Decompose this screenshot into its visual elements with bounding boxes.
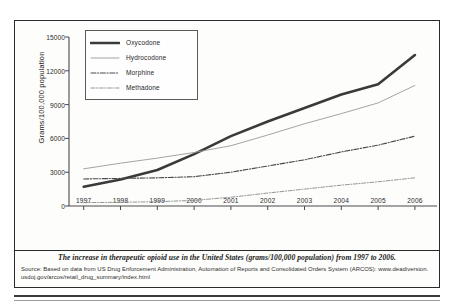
series-line-morphine xyxy=(84,136,415,179)
figure-caption: The increase in therapeutic opioid use i… xyxy=(15,253,439,262)
source-line-2: usdoj.gov/arcos/retail_drug_summary/inde… xyxy=(21,274,150,280)
legend-label: Hydrocodone xyxy=(126,54,166,61)
chart-panel: Grams/100,000 population 030006000900012… xyxy=(15,21,439,251)
legend-label: Oxycodone xyxy=(126,39,160,46)
legend-swatch-morphine xyxy=(90,68,120,78)
figure-container: Grams/100,000 population 030006000900012… xyxy=(14,20,440,288)
legend-label: Methadone xyxy=(126,84,160,91)
legend-item-oxycodone[interactable]: Oxycodone xyxy=(90,35,192,50)
legend-item-hydrocodone[interactable]: Hydrocodone xyxy=(90,50,192,65)
source-line-1: Source: Based on data from US Drug Enfor… xyxy=(21,266,428,272)
legend-swatch-methadone xyxy=(90,83,120,93)
plot-area: Grams/100,000 population 030006000900012… xyxy=(15,21,439,250)
legend-item-morphine[interactable]: Morphine xyxy=(90,65,192,80)
caption-band: The increase in therapeutic opioid use i… xyxy=(15,251,439,287)
legend-swatch-hydrocodone xyxy=(90,53,120,63)
page-bottom-rule-secondary xyxy=(14,300,440,301)
figure-source: Source: Based on data from US Drug Enfor… xyxy=(21,266,435,281)
legend-label: Morphine xyxy=(126,69,154,76)
chart-legend: OxycodoneHydrocodoneMorphineMethadone xyxy=(85,30,198,100)
legend-item-methadone[interactable]: Methadone xyxy=(90,80,192,95)
page-bottom-rule xyxy=(14,295,440,297)
legend-swatch-oxycodone xyxy=(90,38,120,48)
chart-svg xyxy=(15,21,441,251)
series-line-methadone xyxy=(84,178,415,203)
